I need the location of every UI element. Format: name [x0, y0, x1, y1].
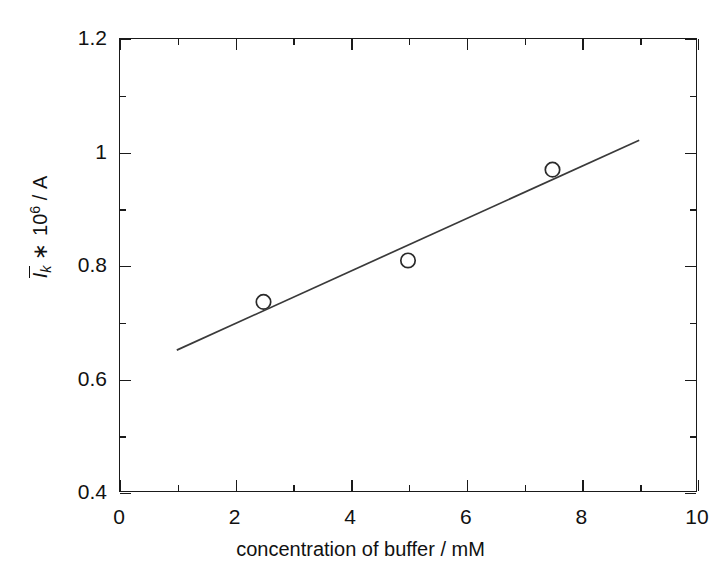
x-tick-label: 0	[89, 506, 149, 527]
x-tick-major	[351, 480, 352, 491]
x-tick-label: 8	[551, 506, 611, 527]
y-tick-major	[120, 153, 131, 154]
x-tick-major	[582, 480, 583, 491]
y-tick-minor	[120, 96, 126, 97]
chart-figure: concentration of buffer / mM Ik ∗ 106 / …	[0, 0, 721, 584]
y-axis-title: Ik ∗ 106 / A	[27, 77, 57, 377]
x-tick-minor-top	[525, 39, 526, 45]
x-axis-title: concentration of buffer / mM	[0, 538, 721, 561]
x-tick-major-top	[236, 39, 237, 50]
x-tick-minor	[178, 485, 179, 491]
y-tick-label: 0.8	[37, 254, 107, 275]
x-tick-label: 4	[320, 506, 380, 527]
y-tick-label: 0.6	[37, 368, 107, 389]
y-tick-major-right	[685, 266, 696, 267]
x-tick-minor-top	[293, 39, 294, 45]
x-tick-major-top	[467, 39, 468, 50]
y-tick-major	[120, 493, 131, 494]
x-tick-minor	[525, 485, 526, 491]
y-tick-major	[120, 380, 131, 381]
y-tick-major	[120, 266, 131, 267]
y-tick-minor-right	[690, 323, 696, 324]
x-tick-label: 6	[436, 506, 496, 527]
y-tick-minor-right	[690, 436, 696, 437]
y-tick-minor-right	[690, 96, 696, 97]
x-tick-minor-top	[640, 39, 641, 45]
x-tick-minor	[409, 485, 410, 491]
y-tick-minor	[120, 436, 126, 437]
y-tick-major-right	[685, 39, 696, 40]
y-tick-label: 0.4	[37, 481, 107, 502]
y-tick-major	[120, 39, 131, 40]
y-tick-major-right	[685, 380, 696, 381]
y-tick-major-right	[685, 153, 696, 154]
y-axis-factor-exponent: 6	[27, 206, 43, 214]
y-axis-separator: /	[29, 189, 51, 206]
x-tick-minor	[293, 485, 294, 491]
y-axis-factor-base: 10	[29, 214, 51, 236]
x-tick-major-top	[698, 39, 699, 50]
x-tick-label: 2	[205, 506, 265, 527]
y-axis-unit: A	[29, 176, 51, 189]
y-tick-minor-right	[690, 209, 696, 210]
plot-area	[119, 38, 697, 492]
y-tick-minor	[120, 209, 126, 210]
x-tick-major	[467, 480, 468, 491]
x-tick-label: 10	[667, 506, 721, 527]
x-tick-minor	[640, 485, 641, 491]
x-tick-major	[120, 480, 121, 491]
x-tick-minor-top	[178, 39, 179, 45]
x-tick-major	[698, 480, 699, 491]
x-tick-major-top	[120, 39, 121, 50]
y-tick-label: 1	[37, 141, 107, 162]
x-tick-major-top	[582, 39, 583, 50]
x-tick-major	[236, 480, 237, 491]
x-tick-minor-top	[409, 39, 410, 45]
y-tick-minor	[120, 323, 126, 324]
y-tick-label: 1.2	[37, 27, 107, 48]
y-tick-major-right	[685, 493, 696, 494]
x-tick-major-top	[351, 39, 352, 50]
